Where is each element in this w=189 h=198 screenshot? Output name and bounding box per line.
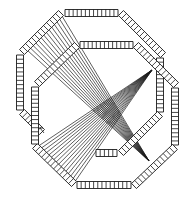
diagram-canvas bbox=[0, 0, 189, 198]
front-octagon-edge-right bbox=[172, 88, 179, 145]
back-octagon-edge-bottom bbox=[96, 150, 117, 157]
front-octagon-edge-bottom bbox=[77, 182, 131, 189]
back-octagon-edge-top bbox=[65, 10, 118, 17]
back-octagon-edge-left bbox=[17, 55, 24, 110]
front-octagon-edge-left bbox=[32, 87, 39, 144]
front-octagon-edge-top bbox=[80, 42, 133, 49]
octagon-fan-diagram bbox=[0, 0, 189, 198]
segmented-bar bbox=[96, 150, 117, 157]
